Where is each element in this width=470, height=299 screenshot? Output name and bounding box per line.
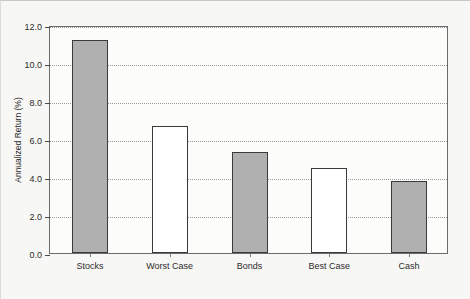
x-tick-mark [250, 253, 251, 257]
y-tick-label: 6.0 [29, 136, 42, 146]
gridline [50, 141, 447, 142]
bar [152, 126, 188, 253]
y-tick-label: 2.0 [29, 212, 42, 222]
y-tick-mark [45, 255, 50, 256]
x-tick-label: Bonds [237, 261, 263, 271]
y-tick-mark [45, 65, 50, 66]
x-tick-mark [90, 253, 91, 257]
plot-area: 0.02.04.06.08.010.012.0 StocksWorst Case… [49, 26, 448, 254]
gridline [50, 27, 447, 28]
y-tick-mark [45, 27, 50, 28]
bar [391, 181, 427, 253]
y-tick-label: 12.0 [24, 22, 42, 32]
y-tick-label: 8.0 [29, 98, 42, 108]
y-tick-label: 10.0 [24, 60, 42, 70]
y-tick-label: 0.0 [29, 250, 42, 260]
x-tick-label: Best Case [309, 261, 351, 271]
gridline [50, 65, 447, 66]
x-tick-mark [409, 253, 410, 257]
gridline [50, 103, 447, 104]
x-tick-mark [329, 253, 330, 257]
y-tick-mark [45, 217, 50, 218]
x-tick-mark [170, 253, 171, 257]
x-tick-label: Stocks [76, 261, 103, 271]
y-tick-mark [45, 103, 50, 104]
bar [232, 152, 268, 253]
bar [72, 40, 108, 253]
bar [311, 168, 347, 254]
bar-chart-figure: Annualized Return (%) 0.02.04.06.08.010.… [0, 0, 470, 299]
y-axis-title: Annualized Return (%) [11, 26, 25, 254]
x-tick-label: Worst Case [146, 261, 193, 271]
x-tick-label: Cash [399, 261, 420, 271]
y-tick-mark [45, 179, 50, 180]
y-tick-label: 4.0 [29, 174, 42, 184]
y-tick-mark [45, 141, 50, 142]
